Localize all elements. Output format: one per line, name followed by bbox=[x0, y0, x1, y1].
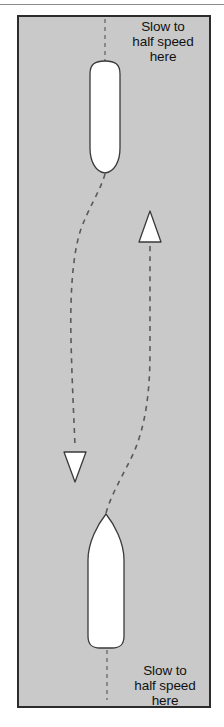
upper-vessel-hull bbox=[90, 61, 120, 173]
left-track-path bbox=[71, 174, 105, 446]
up-arrow-icon bbox=[139, 211, 161, 242]
diagram-container: Slow to half speed here Slow to half spe… bbox=[0, 0, 224, 727]
diagram-graphics bbox=[0, 0, 224, 727]
down-arrow-icon bbox=[64, 452, 86, 482]
top-slow-label: Slow to half speed here bbox=[118, 19, 208, 64]
right-track-path bbox=[106, 246, 150, 513]
lower-vessel-hull bbox=[88, 514, 124, 648]
bottom-slow-label: Slow to half speed here bbox=[120, 663, 210, 708]
